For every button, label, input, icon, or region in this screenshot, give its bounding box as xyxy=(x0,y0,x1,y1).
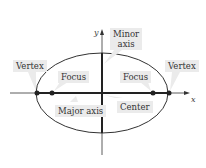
minor-axis-label: Minor axis xyxy=(110,28,142,50)
vertex-right-pointer xyxy=(170,72,180,91)
major-axis-label: Major axis xyxy=(55,105,106,117)
focus-left-point xyxy=(50,91,55,96)
focus-left-label: Focus xyxy=(58,71,89,83)
minor-axis-label-line2: axis xyxy=(113,39,139,49)
center-label: Center xyxy=(117,101,153,113)
focus-left-pointer xyxy=(54,82,68,91)
x-axis-arrow xyxy=(184,91,190,95)
major-axis-pointer xyxy=(70,96,78,102)
y-axis-label: y xyxy=(94,28,99,37)
minor-axis-label-line1: Minor xyxy=(113,29,139,39)
vertex-right-point xyxy=(167,91,172,96)
vertex-left-label: Vertex xyxy=(13,60,47,72)
minor-axis-pointer xyxy=(104,50,122,64)
center-pointer xyxy=(104,95,123,98)
focus-right-point xyxy=(151,91,156,96)
vertex-right-label: Vertex xyxy=(165,60,199,72)
vertex-left-pointer xyxy=(28,72,36,91)
y-axis-arrow xyxy=(100,29,104,35)
vertex-left-point xyxy=(35,91,40,96)
ellipse-diagram xyxy=(0,0,206,168)
x-axis-label: x xyxy=(191,95,196,104)
focus-right-pointer xyxy=(140,82,151,91)
focus-right-label: Focus xyxy=(120,71,151,83)
